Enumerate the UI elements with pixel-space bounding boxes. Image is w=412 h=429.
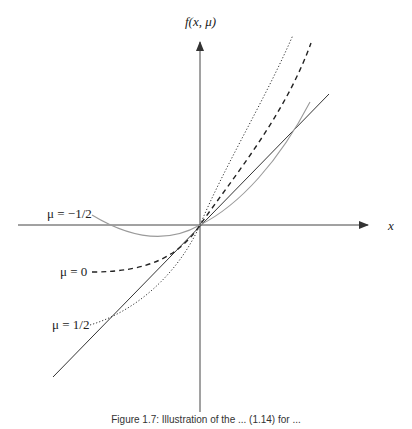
label-mu-half: μ = 1/2 xyxy=(52,317,89,332)
curve-mu-neg-half xyxy=(92,102,310,236)
label-mu-zero: μ = 0 xyxy=(60,264,87,279)
curve-mu-zero xyxy=(92,43,311,272)
label-mu-neg-half: μ = −1/2 xyxy=(47,206,92,221)
figure-canvas: f(x, μ) x μ = −1/2 μ = 0 μ = 1/2 xyxy=(0,0,412,429)
figure-caption: Figure 1.7: Illustration of the ... (1.1… xyxy=(0,414,412,429)
tangent-line xyxy=(53,94,329,377)
y-axis-label: f(x, μ) xyxy=(185,14,216,29)
x-axis-label: x xyxy=(387,218,394,233)
curve-mu-half xyxy=(90,35,293,325)
